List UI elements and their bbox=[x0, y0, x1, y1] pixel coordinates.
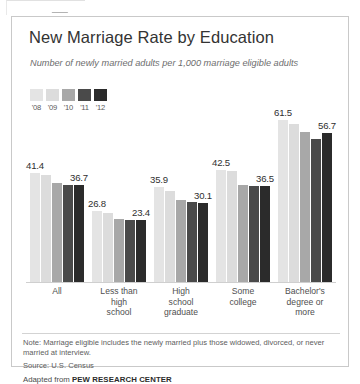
legend-swatch-11 bbox=[78, 89, 91, 101]
bar-group: 35.930.1 bbox=[150, 120, 212, 282]
pew-research-center-brand: PEW RESEARCH CENTER bbox=[72, 375, 172, 384]
attribution-text: Adapted from PEW RESEARCH CENTER bbox=[23, 375, 172, 384]
bar-set bbox=[30, 173, 84, 282]
legend-swatches bbox=[30, 89, 107, 101]
bar bbox=[311, 139, 321, 282]
bar-value-label: 41.4 bbox=[26, 160, 44, 171]
bar-group: 42.536.5 bbox=[212, 120, 274, 282]
bar bbox=[198, 203, 208, 282]
category-label: All bbox=[26, 286, 88, 318]
bar bbox=[260, 186, 270, 282]
chart-legend: '08'09'10'11'12 bbox=[30, 89, 107, 112]
bar bbox=[300, 132, 310, 282]
legend-label-12: '12 bbox=[94, 103, 107, 112]
bar bbox=[52, 183, 62, 282]
bar-value-label: 23.4 bbox=[132, 207, 150, 218]
bar-set bbox=[278, 120, 332, 282]
bar-group: 41.436.7 bbox=[26, 120, 88, 282]
plot-area: 41.436.726.823.435.930.142.536.561.556.7 bbox=[26, 117, 336, 283]
bar-value-label: 56.7 bbox=[318, 120, 336, 131]
chart-subtitle: Number of newly married adults per 1,000… bbox=[30, 58, 298, 68]
axis-baseline bbox=[26, 282, 336, 283]
bar bbox=[136, 220, 146, 282]
source-text: Source: U.S. Census bbox=[23, 361, 94, 370]
scan-artifact bbox=[6, 0, 85, 15]
bar bbox=[238, 185, 248, 282]
bar bbox=[125, 220, 135, 282]
bar-value-label: 42.5 bbox=[212, 157, 230, 168]
legend-label-09: '09 bbox=[46, 103, 59, 112]
bar-set bbox=[92, 211, 146, 282]
chart-title: New Marriage Rate by Education bbox=[29, 28, 274, 47]
bar bbox=[30, 173, 40, 282]
bar bbox=[114, 219, 124, 282]
bar-group: 26.823.4 bbox=[88, 120, 150, 282]
chart-card: New Marriage Rate by Education Number of… bbox=[11, 16, 349, 367]
attribution-prefix: Adapted from bbox=[23, 375, 72, 384]
bar-value-label: 30.1 bbox=[194, 190, 212, 201]
legend-labels: '08'09'10'11'12 bbox=[30, 103, 107, 112]
bar bbox=[227, 171, 237, 282]
bar bbox=[216, 170, 226, 282]
bar bbox=[176, 200, 186, 282]
bar-value-label: 35.9 bbox=[150, 174, 168, 185]
legend-swatch-08 bbox=[30, 89, 43, 101]
category-label: Highschoolgraduate bbox=[150, 286, 212, 318]
bar bbox=[187, 202, 197, 282]
bar-group: 61.556.7 bbox=[274, 120, 336, 282]
bar bbox=[74, 185, 84, 282]
bar bbox=[63, 185, 73, 282]
legend-label-08: '08 bbox=[30, 103, 43, 112]
category-label: Somecollege bbox=[212, 286, 274, 318]
bar bbox=[154, 187, 164, 282]
bar bbox=[41, 175, 51, 282]
category-label: Bachelor'sdegree ormore bbox=[274, 286, 336, 318]
bar-set bbox=[154, 187, 208, 282]
bar bbox=[289, 124, 299, 282]
bar bbox=[103, 213, 113, 282]
bar-set bbox=[216, 170, 270, 282]
legend-label-10: '10 bbox=[62, 103, 75, 112]
legend-swatch-12 bbox=[94, 89, 107, 101]
footnote-text: Note: Marriage eligible includes the new… bbox=[23, 338, 339, 358]
bar-groups: 41.436.726.823.435.930.142.536.561.556.7 bbox=[26, 120, 336, 282]
bar bbox=[322, 133, 332, 282]
bar-value-label: 61.5 bbox=[274, 107, 292, 118]
legend-swatch-09 bbox=[46, 89, 59, 101]
legend-swatch-10 bbox=[62, 89, 75, 101]
bar bbox=[278, 120, 288, 282]
category-label: Less thanhighschool bbox=[88, 286, 150, 318]
bar-value-label: 26.8 bbox=[88, 198, 106, 209]
footer-divider bbox=[22, 333, 340, 334]
bar-value-label: 36.7 bbox=[70, 172, 88, 183]
category-axis-labels: AllLess thanhighschoolHighschoolgraduate… bbox=[26, 286, 336, 318]
legend-label-11: '11 bbox=[78, 103, 91, 112]
bar bbox=[249, 186, 259, 282]
bar-value-label: 36.5 bbox=[256, 173, 274, 184]
bar bbox=[165, 191, 175, 282]
bar bbox=[92, 211, 102, 282]
